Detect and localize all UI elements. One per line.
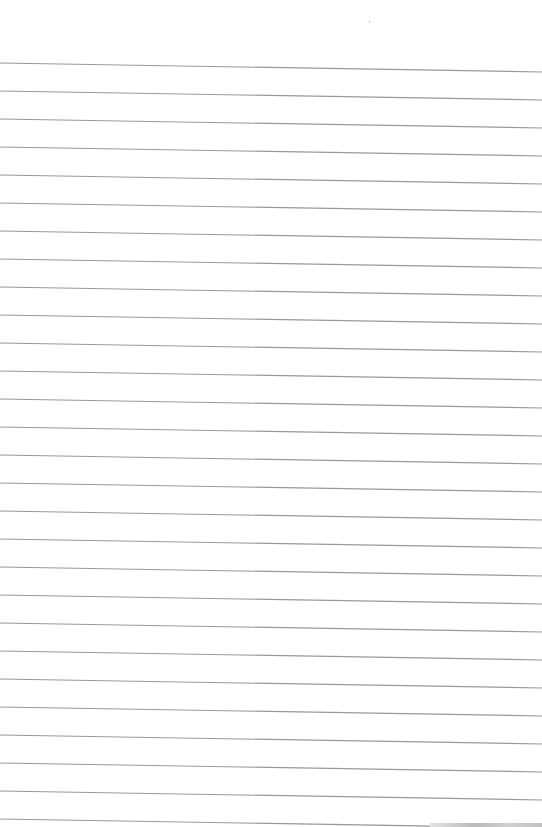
lined-paper-page <box>0 0 542 827</box>
ruled-line <box>0 399 542 408</box>
ruled-line <box>0 539 542 548</box>
ruled-line <box>0 623 542 632</box>
ruled-line <box>0 427 542 436</box>
ruled-line <box>0 175 542 184</box>
ruled-line <box>0 763 542 772</box>
ruled-line <box>0 147 542 156</box>
paper-speck <box>369 21 370 23</box>
ruled-line <box>0 203 542 212</box>
ruled-line <box>0 595 542 604</box>
ruled-lines <box>0 0 542 827</box>
scan-edge-shadow <box>430 823 542 827</box>
ruled-line <box>0 231 542 240</box>
ruled-line <box>0 735 542 744</box>
ruled-line <box>0 315 542 324</box>
ruled-line <box>0 343 542 352</box>
ruled-line <box>0 119 542 128</box>
ruled-line <box>0 567 542 576</box>
ruled-line <box>0 651 542 660</box>
ruled-line <box>0 791 542 800</box>
ruled-line <box>0 455 542 464</box>
ruled-line <box>0 371 542 380</box>
ruled-line <box>0 511 542 520</box>
ruled-line <box>0 287 542 296</box>
ruled-line <box>0 63 542 72</box>
ruled-line <box>0 483 542 492</box>
ruled-line <box>0 707 542 716</box>
ruled-line <box>0 679 542 688</box>
ruled-line <box>0 259 542 268</box>
ruled-line <box>0 91 542 100</box>
